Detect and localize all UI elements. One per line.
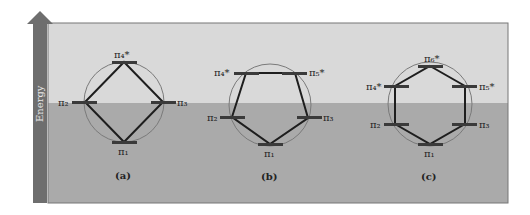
level-pi1	[258, 143, 283, 146]
level-pi4	[112, 61, 137, 64]
energy-axis-label: Energy	[34, 85, 45, 122]
label-pi4: π₄*	[214, 67, 230, 78]
label-pi5: π₅*	[479, 81, 495, 92]
label-pi3: π₃	[479, 119, 490, 130]
label-pi5: π₅*	[309, 67, 325, 78]
level-pi6	[418, 65, 443, 68]
frost-circle-diagram: Energy π₄* π₂ π₃ π₁ (a) π₄* π₅* π₂ π₃ π₁…	[0, 0, 530, 215]
caption-c: (c)	[421, 171, 437, 182]
level-pi1	[112, 141, 137, 144]
level-pi2	[72, 101, 97, 104]
level-pi5	[452, 85, 477, 88]
label-pi6: π₆*	[424, 53, 440, 64]
label-pi3: π₃	[323, 112, 334, 123]
label-pi2: π₂	[58, 97, 69, 108]
level-pi2	[220, 116, 245, 119]
level-pi5	[282, 72, 307, 75]
level-pi4	[234, 72, 259, 75]
label-pi4: π₄*	[366, 81, 382, 92]
label-pi2: π₂	[207, 112, 218, 123]
level-pi3	[297, 116, 322, 119]
lower-band	[48, 103, 508, 203]
level-pi3	[452, 123, 477, 126]
label-pi4: π₄*	[114, 49, 130, 60]
caption-b: (b)	[261, 171, 277, 182]
label-pi2: π₂	[370, 119, 381, 130]
level-pi4	[384, 85, 409, 88]
label-pi1: π₁	[118, 146, 129, 157]
label-pi3: π₃	[177, 97, 188, 108]
level-pi3	[151, 101, 176, 104]
level-pi1	[418, 143, 443, 146]
caption-a: (a)	[115, 170, 131, 181]
label-pi1: π₁	[424, 148, 435, 159]
label-pi1: π₁	[264, 148, 275, 159]
level-pi2	[384, 123, 409, 126]
